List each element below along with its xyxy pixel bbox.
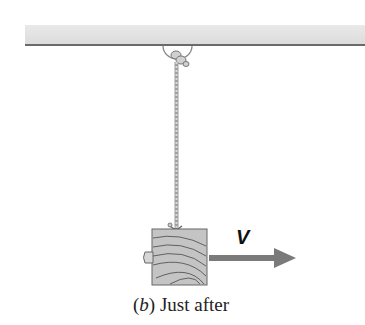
figure-caption: (b) Just after <box>0 294 362 316</box>
velocity-arrow-icon <box>209 248 296 268</box>
wooden-block <box>144 229 208 285</box>
caption-text: Just after <box>155 294 229 315</box>
velocity-label: V <box>236 226 249 249</box>
caption-part-letter: b <box>139 294 149 315</box>
rope <box>168 62 182 229</box>
rope-knot-icon <box>171 51 189 67</box>
